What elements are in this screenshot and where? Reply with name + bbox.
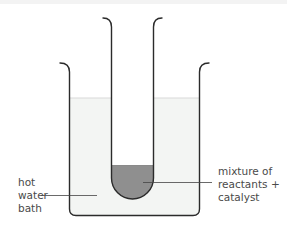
water-bath-label-line-1: hot: [18, 176, 48, 189]
mixture-label-line-3: catalyst: [218, 191, 280, 204]
water-bath-label-line-3: bath: [18, 202, 48, 215]
mixture-label-line-2: reactants +: [218, 178, 280, 191]
mixture-label: mixture of reactants + catalyst: [218, 165, 280, 204]
water-bath-label: hot water bath: [18, 176, 48, 215]
water-bath-label-line-2: water: [18, 189, 48, 202]
mixture-label-line-1: mixture of: [218, 165, 280, 178]
